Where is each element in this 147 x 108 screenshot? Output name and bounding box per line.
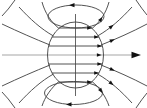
external-field-line-top-right-3 (101, 24, 147, 45)
external-field-line-bottom-right-2 (98, 74, 133, 103)
external-field-line-bottom-left-3 (2, 65, 50, 86)
external-field-line-top-left-corner (2, 0, 15, 16)
external-field-line-bottom-left-corner (2, 92, 15, 108)
external-field-line-top-left-3 (2, 24, 50, 45)
bottom-loop-arrowhead (66, 102, 72, 106)
external-field-line-top-right-2 (98, 7, 133, 36)
figure-canvas (0, 0, 147, 108)
top-loop-arrowhead (69, 3, 75, 7)
external-field-line-bottom-right-3 (101, 65, 147, 86)
top-loop (48, 5, 104, 28)
internal-arrowhead-axis (97, 53, 102, 57)
bottom-right-arrowhead-3 (109, 67, 115, 72)
top-right-arrowhead-3 (109, 38, 115, 43)
external-field-line-top-right-corner (136, 0, 147, 15)
bottom-loop (45, 82, 103, 105)
field-line-diagram (0, 0, 147, 108)
external-field-line-bottom-right-corner (136, 93, 147, 108)
external-field-line-top-right-1 (92, 2, 109, 29)
axis-arrowhead (132, 52, 142, 58)
external-field-line-top-left-2 (19, 7, 54, 36)
